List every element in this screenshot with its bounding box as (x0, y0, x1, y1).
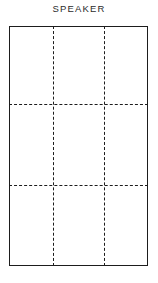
cell-r2c3 (104, 104, 148, 185)
cell-r2c2 (53, 104, 104, 185)
diagram-canvas: SPEAKER (0, 0, 158, 283)
cell-r3c1 (9, 185, 53, 266)
cell-r2c1 (9, 104, 53, 185)
cell-r1c3 (104, 26, 148, 104)
cell-r3c3 (104, 185, 148, 266)
cell-r3c2 (53, 185, 104, 266)
cell-r1c1 (9, 26, 53, 104)
page-title: SPEAKER (0, 3, 158, 15)
cell-r1c2 (53, 26, 104, 104)
